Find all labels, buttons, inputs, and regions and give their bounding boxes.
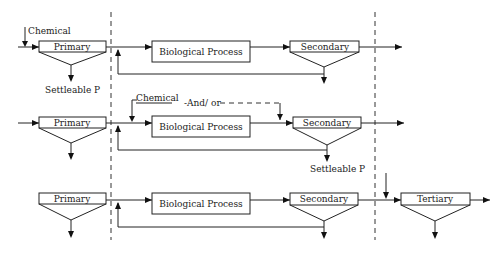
arrow-icon	[283, 197, 290, 203]
arrow-icon	[68, 153, 74, 160]
svg-text:Biological Process: Biological Process	[159, 199, 243, 209]
svg-text:Secondary: Secondary	[300, 194, 349, 204]
settleable-p-label: Settleable P	[45, 85, 100, 95]
arrow-icon	[115, 49, 121, 56]
primary-label: Primary	[54, 42, 91, 52]
arrow-icon	[395, 44, 402, 50]
settleable-p-label: Settleable P	[310, 164, 365, 174]
svg-text:Primary: Primary	[54, 118, 91, 128]
svg-text:Secondary: Secondary	[303, 118, 352, 128]
biological-process-box: Biological Process	[152, 193, 250, 214]
tertiary-clarifier: Tertiary	[401, 193, 470, 221]
primary-clarifier: Primary	[39, 117, 106, 143]
chemical-label: Chemical	[136, 93, 179, 103]
arrow-icon	[68, 75, 74, 82]
arrow-icon	[129, 116, 135, 122]
primary-clarifier: Primary	[39, 41, 106, 65]
arrow-icon	[115, 202, 121, 209]
arrow-icon	[68, 231, 74, 238]
svg-text:Tertiary: Tertiary	[417, 194, 454, 204]
arrow-icon	[32, 44, 39, 50]
svg-text:Primary: Primary	[54, 194, 91, 204]
arrow-icon	[277, 114, 283, 120]
secondary-clarifier: Secondary	[290, 193, 358, 221]
arrow-icon	[145, 44, 152, 50]
arrow-icon	[432, 232, 438, 239]
arrow-icon	[321, 77, 327, 84]
chemical-label: Chemical	[28, 26, 71, 36]
arrow-icon	[115, 125, 121, 132]
arrow-icon	[145, 120, 152, 126]
secondary-clarifier: Secondary	[293, 117, 361, 145]
biological-process-box: Biological Process	[152, 116, 250, 137]
arrow-icon	[483, 197, 490, 203]
arrow-icon	[394, 197, 401, 203]
row-3: Primary Biological Process Secondary Ter…	[39, 173, 490, 239]
arrow-icon	[22, 41, 28, 47]
arrow-icon	[283, 44, 290, 50]
arrow-icon	[321, 232, 327, 239]
svg-text:Biological Process: Biological Process	[159, 122, 243, 132]
and-or-label: -And/ or	[184, 98, 221, 108]
process-flow-diagram: Chemical Primary Settleable P Biological…	[0, 0, 503, 256]
arrow-icon	[32, 120, 39, 126]
svg-text:Secondary: Secondary	[301, 42, 350, 52]
primary-clarifier: Primary	[39, 193, 106, 220]
arrow-icon	[383, 192, 389, 199]
arrow-icon	[286, 120, 293, 126]
svg-text:Biological Process: Biological Process	[159, 47, 243, 57]
row-2: Primary Chemical -And/ or Biological Pro…	[18, 93, 404, 174]
arrow-icon	[397, 120, 404, 126]
biological-process-box: Biological Process	[152, 41, 250, 62]
arrow-icon	[145, 197, 152, 203]
row-1: Chemical Primary Settleable P Biological…	[18, 26, 402, 95]
secondary-clarifier: Secondary	[290, 41, 359, 67]
arrow-icon	[324, 155, 330, 162]
